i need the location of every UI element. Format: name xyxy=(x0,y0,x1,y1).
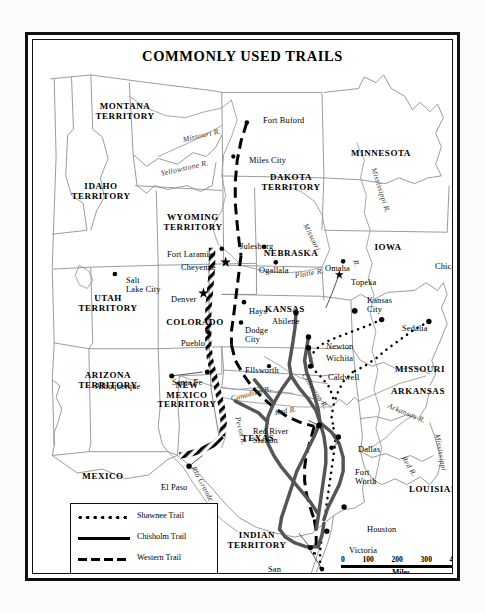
scale-tick: 200 xyxy=(392,555,403,564)
scale-bar: 0100200300400 Miles xyxy=(341,555,453,574)
city-label: Salt Lake City xyxy=(126,276,161,294)
state-label: MEXICO xyxy=(82,472,123,482)
scale-tick: 400 xyxy=(450,555,453,564)
legend-item-western-trail: Western Trail xyxy=(71,553,217,574)
shawnee-trail-swatch-icon xyxy=(78,512,130,523)
state-label: IDAHO TERRITORY xyxy=(72,182,131,201)
city-label: Houston xyxy=(367,525,396,534)
legend-label-shawnee: Shawnee Trail xyxy=(130,511,184,520)
city-label: Denver xyxy=(171,295,197,304)
city-label: Dallas xyxy=(358,445,380,454)
city-label: Sedalia xyxy=(402,324,428,333)
legend-item-shawnee-trail: Shawnee Trail xyxy=(71,511,217,532)
state-label: KANSAS xyxy=(265,305,305,315)
state-label: ARKANSAS xyxy=(391,387,445,397)
city-label: Fort Worth xyxy=(355,468,376,486)
state-label: MONTANA TERRITORY xyxy=(96,102,155,121)
city-label: Wichita xyxy=(326,354,353,363)
map-screenshot: COMMONLY USED TRAILS xyxy=(0,0,485,613)
city-label: Santa Fe xyxy=(172,378,202,387)
chisholm-trail-swatch-icon xyxy=(78,533,130,544)
map-plate-inner: COMMONLY USED TRAILS xyxy=(32,39,453,574)
state-label: LOUISIANA xyxy=(409,485,453,495)
map-plate: COMMONLY USED TRAILS xyxy=(25,32,460,581)
city-label: Miles City xyxy=(249,156,286,165)
scale-tick: 300 xyxy=(421,555,432,564)
city-label: Newton xyxy=(326,342,353,351)
city-label: Dodge City xyxy=(245,326,268,344)
city-label: Cheyenne xyxy=(181,263,216,272)
city-label: Hays xyxy=(249,307,267,316)
state-label: MISSOURI xyxy=(395,365,445,375)
city-label: Omaha xyxy=(325,264,350,273)
capital-star-markers xyxy=(198,257,344,298)
scale-unit-label: Miles xyxy=(341,568,453,574)
city-label: Caldwell xyxy=(328,373,359,382)
legend-label-western: Western Trail xyxy=(130,553,181,562)
legend-item-chisholm-trail: Chisholm Trail xyxy=(71,532,217,553)
city-label: San Antonio xyxy=(268,565,297,574)
city-label: Red River Station xyxy=(253,427,289,445)
city-label: Albuquerque xyxy=(95,382,140,391)
western-trail-swatch-icon xyxy=(78,554,130,565)
city-label: Victoria xyxy=(349,546,377,555)
city-label: Kansas City xyxy=(367,296,392,314)
city-label: Ellsworth xyxy=(245,366,279,375)
scale-tick-labels: 0100200300400 xyxy=(341,555,453,564)
state-label: IOWA xyxy=(374,243,401,253)
state-label: UTAH TERRITORY xyxy=(79,294,138,313)
state-label: MINNESOTA xyxy=(351,149,411,159)
state-label: INDIAN TERRITORY xyxy=(228,531,287,550)
scale-tick: 100 xyxy=(362,555,373,564)
city-label: El Paso xyxy=(161,483,187,492)
city-label: Pueblo xyxy=(181,339,205,348)
state-label: WYOMING TERRITORY xyxy=(164,213,223,232)
city-label: Julesburg xyxy=(240,242,273,251)
city-label: Chicago xyxy=(435,262,453,271)
city-label: Fort Laramie xyxy=(167,250,213,259)
legend-label-chisholm: Chisholm Trail xyxy=(130,532,186,541)
city-label: Abilene xyxy=(272,317,300,326)
map-title: COMMONLY USED TRAILS xyxy=(33,48,452,65)
city-label: Fort Buford xyxy=(263,116,304,125)
state-label: DAKOTA TERRITORY xyxy=(262,173,321,192)
city-label: Ogallala xyxy=(259,266,289,275)
map-legend: Shawnee Trail Chisholm Trail Western Tra… xyxy=(70,503,218,574)
scale-tick: 0 xyxy=(341,555,345,564)
city-label: Topeka xyxy=(351,278,376,287)
city-label: St. Louis xyxy=(452,319,453,337)
state-label: COLORADO xyxy=(166,318,223,328)
